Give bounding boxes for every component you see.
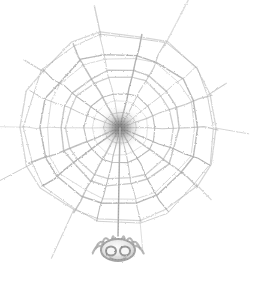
spider-web-illustration [0, 0, 259, 291]
web-canvas [0, 0, 259, 291]
halftone-grain-overlay [0, 0, 259, 291]
